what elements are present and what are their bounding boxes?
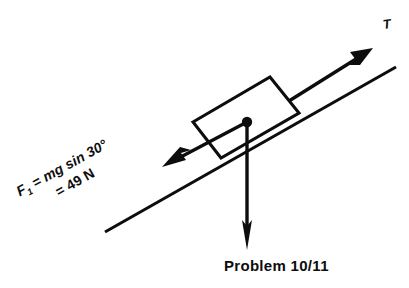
tension-arrow-head [349, 48, 373, 65]
tension-label: T [382, 17, 392, 32]
physics-diagram-figure: F1 = mg sin 30° = 49 N T Problem 10/11 [0, 0, 409, 288]
figure-caption: Problem 10/11 [224, 258, 329, 274]
force-f1-arrow-head [162, 147, 191, 167]
tension-vector-arrow [289, 48, 373, 101]
incline-surface-line [105, 67, 396, 232]
force-application-dot [242, 117, 252, 127]
tension-arrow-shaft [289, 54, 364, 101]
force-f1-arrow-shaft [175, 122, 247, 160]
diagram-canvas [0, 0, 409, 288]
